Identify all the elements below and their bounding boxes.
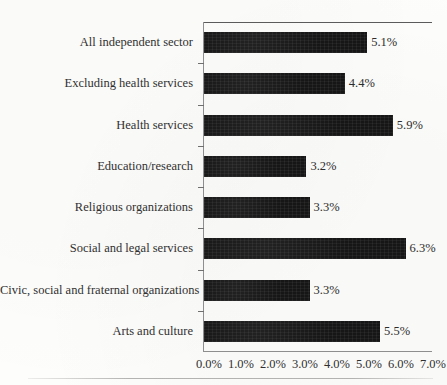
bar-value-label: 5.5% xyxy=(381,321,410,342)
bar xyxy=(204,32,367,53)
x-axis-tick-labels: 0.0%1.0%2.0%3.0%4.0%5.0%6.0%7.0% xyxy=(0,356,447,374)
bar-value-label: 6.3% xyxy=(407,238,436,259)
bar-row: 5.5% xyxy=(204,311,433,352)
bar-row: 4.4% xyxy=(204,63,433,104)
category-label: Religious organizations xyxy=(0,200,193,214)
category-label: Social and legal services xyxy=(0,241,193,255)
bar-value-label: 5.9% xyxy=(394,115,423,136)
bar-value-label: 3.3% xyxy=(311,280,340,301)
page-footer-rule xyxy=(28,378,433,379)
bar-value-label: 3.2% xyxy=(307,156,336,177)
bar xyxy=(204,115,393,136)
bar-value-label: 4.4% xyxy=(346,73,375,94)
category-label: Excluding health services xyxy=(0,76,193,90)
category-label: Health services xyxy=(0,118,193,132)
bar xyxy=(204,321,380,342)
bar-chart-figure: All independent sectorExcluding health s… xyxy=(0,0,447,385)
bar-value-label: 3.3% xyxy=(311,197,340,218)
bar-row: 6.3% xyxy=(204,228,433,269)
bar xyxy=(204,280,310,301)
category-label: All independent sector xyxy=(0,35,193,49)
bar-row: 3.2% xyxy=(204,146,433,187)
bar xyxy=(204,238,406,259)
bar xyxy=(204,73,345,94)
bar-value-label: 5.1% xyxy=(368,32,397,53)
bar-row: 3.3% xyxy=(204,270,433,311)
x-axis-tick-label: 7.0% xyxy=(413,356,447,372)
category-label: Arts and culture xyxy=(0,324,193,338)
bar-row: 3.3% xyxy=(204,187,433,228)
bar xyxy=(204,197,310,218)
category-label: Education/research xyxy=(0,159,193,173)
bar xyxy=(204,156,306,177)
plot-area: 5.1%4.4%5.9%3.2%3.3%6.3%3.3%5.5% xyxy=(203,22,432,352)
bar-row: 5.9% xyxy=(204,105,433,146)
category-label: Civic, social and fraternal organization… xyxy=(0,283,193,297)
bar-row: 5.1% xyxy=(204,22,433,63)
category-axis-labels: All independent sectorExcluding health s… xyxy=(0,22,197,352)
